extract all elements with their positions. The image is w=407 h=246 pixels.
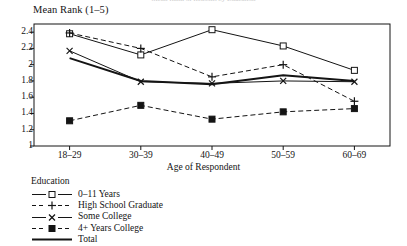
series-1	[67, 27, 358, 74]
legend-item-label: 0–11 Years	[78, 189, 120, 201]
legend-key-icon	[31, 223, 73, 234]
x-tick-label: 60–69	[343, 150, 367, 160]
legend-item-label: Some College	[78, 211, 132, 223]
x-axis-label: Age of Respondent	[0, 162, 407, 172]
legend-item: Total	[31, 234, 163, 245]
legend-item: High School Graduate	[31, 200, 163, 211]
legend-key-icon	[31, 234, 73, 245]
legend-item-label: Total	[78, 234, 97, 246]
legend-item-label: High School Graduate	[78, 200, 163, 212]
legend-key-icon	[31, 212, 73, 223]
chart-legend: Education 0–11 YearsHigh School Graduate…	[31, 176, 163, 246]
legend-key-icon	[31, 200, 73, 211]
legend-item: 0–11 Years	[31, 189, 163, 200]
legend-key-icon	[31, 189, 73, 200]
series-4	[67, 102, 358, 123]
legend-item: 4+ Years College	[31, 223, 163, 234]
x-tick-label: 40–49	[200, 150, 224, 160]
x-tick-label: 50–59	[271, 150, 295, 160]
x-tick-label: 30–39	[129, 150, 153, 160]
legend-item: Some College	[31, 211, 163, 222]
legend-entries: 0–11 YearsHigh School GraduateSome Colle…	[31, 189, 163, 246]
x-tick-label: 18–29	[58, 150, 82, 160]
series-2	[66, 29, 359, 105]
legend-item-label: 4+ Years College	[78, 223, 143, 235]
legend-title: Education	[31, 176, 163, 188]
